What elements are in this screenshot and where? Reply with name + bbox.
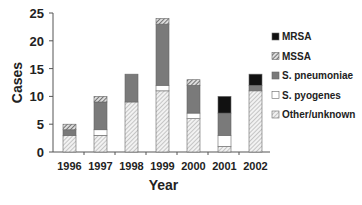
bar-segment bbox=[187, 80, 200, 86]
y-tick-label: 25 bbox=[30, 6, 44, 21]
legend-swatch bbox=[272, 111, 279, 118]
legend-label: S. pyogenes bbox=[282, 90, 341, 101]
bar-segment bbox=[218, 135, 231, 146]
x-tick-label: 2002 bbox=[243, 160, 267, 172]
bar-segment bbox=[63, 124, 76, 130]
y-tick-label: 10 bbox=[30, 89, 44, 104]
bar-segment bbox=[63, 130, 76, 136]
x-axis-title: Year bbox=[149, 177, 179, 193]
bar-segment bbox=[94, 96, 107, 102]
bar-segment bbox=[156, 24, 169, 85]
legend-label: MRSA bbox=[282, 31, 311, 42]
bar-segment bbox=[94, 102, 107, 130]
bar-segment bbox=[187, 119, 200, 152]
x-tick-label: 1997 bbox=[88, 160, 112, 172]
bar-segment bbox=[156, 85, 169, 91]
bar-segment bbox=[63, 135, 76, 152]
y-tick-label: 5 bbox=[37, 117, 44, 132]
bar-segment bbox=[156, 19, 169, 25]
legend: MRSAMSSAS. pneumoniaeS. pyogenesOther/un… bbox=[272, 31, 355, 120]
bar-segment bbox=[125, 102, 138, 152]
bar-segment bbox=[249, 91, 262, 152]
legend-swatch bbox=[272, 72, 279, 79]
x-tick-label: 1998 bbox=[119, 160, 143, 172]
bar-segment bbox=[187, 113, 200, 119]
legend-swatch bbox=[272, 92, 279, 99]
legend-label: S. pneumoniae bbox=[282, 70, 354, 81]
bar-segment bbox=[94, 130, 107, 136]
x-tick-label: 1996 bbox=[57, 160, 81, 172]
x-tick-label: 1999 bbox=[150, 160, 174, 172]
y-tick-label: 20 bbox=[30, 34, 44, 49]
bar-segment bbox=[218, 113, 231, 135]
x-tick-label: 2000 bbox=[181, 160, 205, 172]
bar-segment bbox=[187, 85, 200, 113]
x-tick-label: 2001 bbox=[212, 160, 236, 172]
y-axis-title: Cases bbox=[9, 62, 25, 103]
legend-label: MSSA bbox=[282, 51, 311, 62]
legend-swatch bbox=[272, 33, 279, 40]
legend-swatch bbox=[272, 53, 279, 60]
bar-segment bbox=[249, 85, 262, 91]
bar-segment bbox=[94, 135, 107, 152]
legend-label: Other/unknown bbox=[282, 109, 355, 120]
stacked-bar-chart: 0510152025Cases1996199719981999200020012… bbox=[0, 0, 362, 205]
y-tick-label: 15 bbox=[30, 62, 44, 77]
bars bbox=[63, 19, 262, 152]
bar-segment bbox=[249, 74, 262, 85]
bar-segment bbox=[156, 91, 169, 152]
bar-segment bbox=[218, 146, 231, 152]
bar-segment bbox=[125, 74, 138, 102]
bar-segment bbox=[218, 96, 231, 113]
y-tick-label: 0 bbox=[37, 145, 44, 160]
